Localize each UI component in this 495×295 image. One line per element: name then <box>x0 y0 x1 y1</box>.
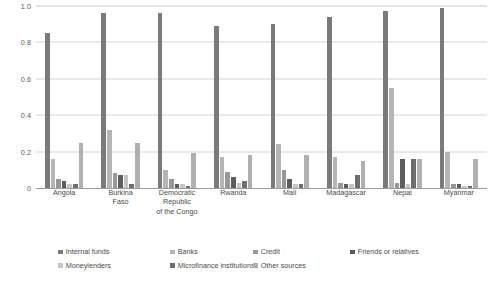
x-axis-category-label: Democratic Republic of the Congo <box>149 188 205 216</box>
y-axis-tick-label: 1.0 <box>21 2 31 11</box>
y-axis-tick-label: 0.6 <box>21 74 31 83</box>
bar <box>101 13 106 188</box>
bar-chart: 00.20.40.60.81.0 AngolaBurkina FasoDemoc… <box>0 0 495 295</box>
legend-label: Friends or relatives <box>358 248 419 256</box>
bar <box>304 155 309 188</box>
legend-item[interactable]: Microfinance institutions <box>170 262 254 270</box>
legend-swatch-icon <box>253 250 258 255</box>
legend-row: MoneylendersMicrofinance institutionsOth… <box>58 262 458 271</box>
bar <box>248 155 253 188</box>
plot-area: 00.20.40.60.81.0 <box>0 6 495 206</box>
bar-group <box>36 6 92 188</box>
bar-group <box>149 6 205 188</box>
x-axis-category-label: Nepal <box>374 188 430 216</box>
bar <box>389 88 394 188</box>
category-labels: AngolaBurkina FasoDemocratic Republic of… <box>36 188 487 216</box>
legend-label: Internal funds <box>66 248 110 256</box>
y-axis-tick-label: 0.2 <box>21 147 31 156</box>
bar <box>191 153 196 188</box>
x-axis-category-label: Rwanda <box>205 188 261 216</box>
bar <box>282 170 287 188</box>
legend-label: Moneylenders <box>66 262 111 270</box>
bar <box>276 144 281 188</box>
bar <box>56 179 61 188</box>
bar <box>225 172 230 188</box>
legend-swatch-icon <box>350 250 355 255</box>
legend-item[interactable]: Moneylenders <box>58 262 111 270</box>
bar <box>333 157 338 188</box>
legend-row: Internal fundsBanksCreditFriends or rela… <box>58 248 458 257</box>
bar <box>62 181 67 188</box>
bar <box>45 33 50 188</box>
bar <box>417 159 422 188</box>
y-axis-tick-label: 0.4 <box>21 111 31 120</box>
x-axis-category-label: Burkina Faso <box>92 188 148 216</box>
legend-item[interactable]: Internal funds <box>58 248 109 256</box>
bars-layer <box>36 6 487 188</box>
bar-group <box>431 6 487 188</box>
legend-label: Other sources <box>261 262 306 270</box>
bar <box>473 159 478 188</box>
bar <box>327 17 332 188</box>
bar <box>113 173 118 188</box>
chart-legend: Internal fundsBanksCreditFriends or rela… <box>58 248 458 275</box>
legend-item[interactable]: Friends or relatives <box>350 248 419 256</box>
bar <box>355 175 360 188</box>
legend-item[interactable]: Banks <box>170 248 198 256</box>
bar <box>271 24 276 188</box>
bar-group <box>262 6 318 188</box>
bar <box>79 143 84 189</box>
bar <box>361 161 366 188</box>
y-axis: 00.20.40.60.81.0 <box>0 6 36 188</box>
bar <box>163 170 168 188</box>
bar-group <box>92 6 148 188</box>
bar <box>135 143 140 189</box>
y-axis-tick-label: 0.8 <box>21 38 31 47</box>
legend-label: Banks <box>178 248 198 256</box>
y-axis-tick-label: 0 <box>27 184 31 193</box>
legend-swatch-icon <box>58 250 63 255</box>
x-axis-category-label: Madagascar <box>318 188 374 216</box>
legend-item[interactable]: Credit <box>253 248 280 256</box>
x-axis-category-label: Angola <box>36 188 92 216</box>
bar <box>231 177 236 188</box>
legend-item[interactable]: Other sources <box>253 262 306 270</box>
legend-swatch-icon <box>58 263 63 268</box>
x-axis-category-label: Myanmar <box>431 188 487 216</box>
legend-swatch-icon <box>170 263 175 268</box>
bar-group <box>318 6 374 188</box>
legend-label: Microfinance institutions <box>178 262 255 270</box>
bar <box>107 130 112 188</box>
bar <box>411 159 416 188</box>
bar-group <box>205 6 261 188</box>
bar <box>124 175 129 188</box>
legend-swatch-icon <box>253 263 258 268</box>
bar <box>220 157 225 188</box>
bar <box>118 175 123 188</box>
legend-swatch-icon <box>170 250 175 255</box>
bar <box>214 26 219 188</box>
bar <box>287 179 292 188</box>
bar <box>51 159 56 188</box>
bar <box>445 152 450 188</box>
bar <box>169 179 174 188</box>
legend-label: Credit <box>261 248 280 256</box>
bar <box>158 13 163 188</box>
x-axis-category-label: Mali <box>262 188 318 216</box>
bar <box>400 159 405 188</box>
bar <box>242 181 247 188</box>
bar-group <box>374 6 430 188</box>
bar <box>383 11 388 188</box>
bar <box>440 8 445 188</box>
